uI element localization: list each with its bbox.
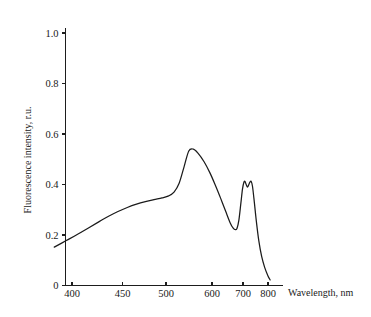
spectrum-chart: 00.20.40.60.81.0 Fluorescence intensity,… [0,0,371,317]
x-tick-label: 700 [235,288,251,299]
x-tick-label: 400 [64,288,80,299]
y-tick-label: 1.0 [45,28,58,39]
y-tick-label: 0.4 [45,179,59,190]
y-tick-label: 0.2 [45,230,58,241]
x-tick-label: 500 [158,288,174,299]
y-axis-ticks [62,33,66,286]
x-axis-group: 400450500600700800 Wavelength, nm [64,282,353,299]
x-tick-label: 800 [260,288,276,299]
x-axis-ticks [72,282,268,286]
y-tick-label: 0 [53,280,58,291]
x-axis-title: Wavelength, nm [288,287,354,298]
y-axis-tick-labels: 00.20.40.60.81.0 [45,28,59,292]
y-axis-group: 00.20.40.60.81.0 Fluorescence intensity,… [22,28,66,292]
x-axis-tick-labels: 400450500600700800 [64,288,276,299]
x-tick-label: 600 [204,288,220,299]
spectrum-line-series [54,149,270,280]
y-tick-label: 0.6 [45,129,58,140]
x-tick-label: 450 [115,288,131,299]
y-tick-label: 0.8 [45,78,58,89]
data-series-group [54,149,270,280]
fluorescence-spectrum-figure: 00.20.40.60.81.0 Fluorescence intensity,… [0,0,371,317]
y-axis-title: Fluorescence intensity, r.u. [22,107,33,214]
